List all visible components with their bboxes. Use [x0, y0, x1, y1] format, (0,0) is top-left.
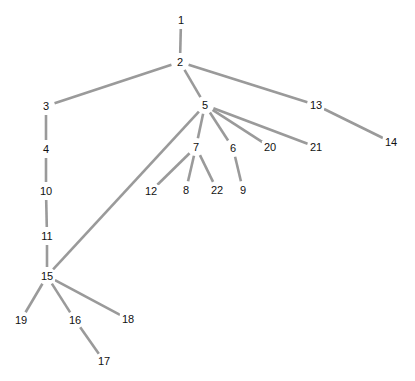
node-2: 2: [175, 56, 185, 68]
node-10: 10: [38, 185, 54, 197]
node-13: 13: [308, 99, 324, 111]
node-16: 16: [67, 314, 83, 326]
edge-6-9: [235, 157, 241, 181]
node-6: 6: [228, 142, 238, 154]
node-4: 4: [41, 143, 51, 155]
edge-15-19: [26, 284, 43, 313]
edge-16-17: [80, 327, 99, 353]
node-18: 18: [120, 313, 136, 325]
edge-2-3: [55, 65, 172, 103]
edge-15-18: [55, 280, 120, 315]
node-1: 1: [176, 14, 186, 26]
node-11: 11: [39, 230, 54, 242]
edge-2-13: [189, 65, 308, 103]
node-12: 12: [143, 185, 159, 197]
node-17: 17: [96, 355, 112, 367]
node-7: 7: [191, 141, 201, 153]
node-14: 14: [383, 136, 399, 148]
node-22: 22: [209, 184, 225, 196]
edge-1-2: [180, 29, 181, 53]
edge-10-11: [46, 200, 47, 227]
node-21: 21: [308, 141, 324, 153]
node-5: 5: [200, 99, 210, 111]
node-20: 20: [262, 141, 278, 153]
edge-5-15: [53, 112, 199, 270]
edge-5-7: [198, 114, 203, 138]
edge-13-14: [324, 109, 383, 138]
edge-2-5: [185, 70, 201, 97]
edge-7-12: [157, 153, 189, 184]
node-15: 15: [39, 270, 55, 282]
node-3: 3: [41, 100, 51, 112]
node-9: 9: [238, 184, 248, 196]
node-8: 8: [181, 184, 191, 196]
edge-7-22: [200, 155, 213, 182]
node-19: 19: [13, 314, 29, 326]
tree-edges: [0, 0, 415, 381]
edge-7-8: [188, 156, 194, 181]
